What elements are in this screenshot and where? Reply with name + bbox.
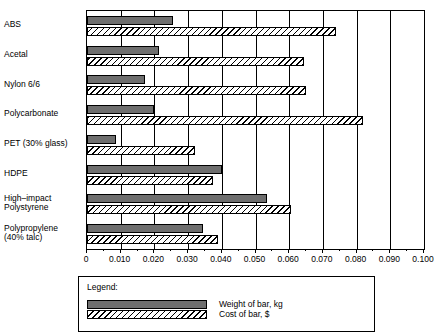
x-tick bbox=[423, 249, 424, 253]
x-tick-minor bbox=[170, 249, 171, 251]
bar-weight bbox=[87, 16, 173, 25]
bar-cost bbox=[87, 86, 306, 95]
x-tick-label: 0.040 bbox=[210, 254, 231, 265]
legend-swatch-cost-icon bbox=[87, 310, 207, 319]
x-tick bbox=[322, 249, 323, 253]
x-tick-label: 0 bbox=[84, 254, 89, 265]
x-axis-tick-labels: 00.0100.0200.0300.0400.0500.0600.0700.08… bbox=[0, 254, 445, 268]
bar-weight bbox=[87, 194, 267, 203]
x-tick-label: 0.100 bbox=[412, 254, 433, 265]
bar-weight bbox=[87, 75, 145, 84]
category-axis-labels: ABSAcetalNylon 6/6PolycarbonatePET (30% … bbox=[0, 10, 84, 248]
bar-chart: ABSAcetalNylon 6/6PolycarbonatePET (30% … bbox=[0, 0, 445, 335]
category-label: Acetal bbox=[4, 50, 84, 60]
category-label: HDPE bbox=[4, 169, 84, 179]
x-tick bbox=[389, 249, 390, 253]
x-tick-label: 0.080 bbox=[345, 254, 366, 265]
legend-label-cost: Cost of bar, $ bbox=[219, 309, 270, 320]
x-tick-label: 0.010 bbox=[109, 254, 130, 265]
gridline bbox=[357, 11, 358, 249]
bar-weight bbox=[87, 135, 116, 144]
x-tick-label: 0.090 bbox=[379, 254, 400, 265]
bar-cost bbox=[87, 176, 213, 185]
x-tick bbox=[356, 249, 357, 253]
category-label: Polycarbonate bbox=[4, 109, 84, 119]
x-tick-label: 0.050 bbox=[244, 254, 265, 265]
x-tick-minor bbox=[339, 249, 340, 251]
bar-cost bbox=[87, 116, 363, 125]
x-tick bbox=[288, 249, 289, 253]
x-tick-label: 0.070 bbox=[311, 254, 332, 265]
x-tick bbox=[86, 249, 87, 253]
bar-cost bbox=[87, 57, 304, 66]
x-tick-minor bbox=[204, 249, 205, 251]
x-tick bbox=[255, 249, 256, 253]
bar-cost bbox=[87, 27, 336, 36]
category-label: Nylon 6/6 bbox=[4, 80, 84, 90]
x-tick-minor bbox=[406, 249, 407, 251]
x-tick-minor bbox=[271, 249, 272, 251]
bar-cost bbox=[87, 205, 291, 214]
x-tick-minor bbox=[372, 249, 373, 251]
plot-area bbox=[86, 10, 425, 250]
x-tick-minor bbox=[238, 249, 239, 251]
gridline bbox=[323, 11, 324, 249]
x-tick-label: 0.060 bbox=[278, 254, 299, 265]
legend-title: Legend: bbox=[87, 282, 118, 293]
legend-box: Legend: Weight of bar, kg Cost of bar, $ bbox=[78, 276, 375, 332]
category-label: PET (30% glass) bbox=[4, 139, 84, 149]
legend-swatch-weight-icon bbox=[87, 300, 207, 309]
x-tick-minor bbox=[103, 249, 104, 251]
category-label: High–impact Polystyrene bbox=[4, 194, 84, 213]
bar-cost bbox=[87, 235, 218, 244]
category-label: Polypropylene (40% talc) bbox=[4, 224, 84, 243]
category-label: ABS bbox=[4, 20, 84, 30]
bar-weight bbox=[87, 46, 159, 55]
x-tick-minor bbox=[137, 249, 138, 251]
bar-weight bbox=[87, 165, 222, 174]
x-tick bbox=[153, 249, 154, 253]
x-tick bbox=[221, 249, 222, 253]
x-tick bbox=[120, 249, 121, 253]
bar-weight bbox=[87, 224, 203, 233]
plot-inner bbox=[87, 11, 424, 249]
gridline bbox=[390, 11, 391, 249]
x-tick bbox=[187, 249, 188, 253]
bar-cost bbox=[87, 146, 195, 155]
x-tick-label: 0.020 bbox=[143, 254, 164, 265]
x-tick-minor bbox=[305, 249, 306, 251]
bar-weight bbox=[87, 105, 154, 114]
x-tick-label: 0.030 bbox=[176, 254, 197, 265]
